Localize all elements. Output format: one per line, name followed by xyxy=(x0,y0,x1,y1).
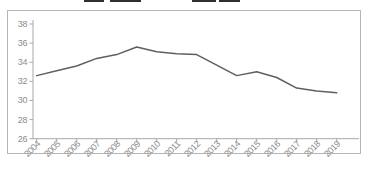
x-axis-tick-label: 2016 xyxy=(262,139,282,159)
x-axis-tick-label: 2007 xyxy=(82,139,102,159)
x-axis-tick-label: 2019 xyxy=(322,139,342,159)
x-axis-tick-label: 2013 xyxy=(202,139,222,159)
x-axis-tick-label: 2011 xyxy=(162,139,182,159)
y-axis-tick-label: 36 xyxy=(18,38,28,48)
y-axis-tick-label: 38 xyxy=(18,19,28,29)
y-axis-tick-label: 28 xyxy=(18,115,28,125)
x-axis-tick-label: 2015 xyxy=(242,139,262,159)
x-axis-tick-label: 2014 xyxy=(222,139,242,159)
y-axis-tick-label: 30 xyxy=(18,95,28,105)
chart-widget: 2628303234363820042005200620072008200920… xyxy=(0,0,370,170)
x-axis-tick-label: 2008 xyxy=(102,139,122,159)
x-axis-tick-label: 2017 xyxy=(282,139,302,159)
x-axis-tick-label: 2012 xyxy=(182,139,202,159)
x-axis-tick-label: 2010 xyxy=(142,139,162,159)
y-axis-tick-label: 34 xyxy=(18,57,28,67)
x-axis-tick-label: 2006 xyxy=(62,139,82,159)
x-axis-tick-label: 2018 xyxy=(302,139,322,159)
axis-lines xyxy=(33,20,359,139)
data-line xyxy=(37,47,337,93)
x-axis-tick-label: 2009 xyxy=(122,139,142,159)
y-axis-tick-label: 32 xyxy=(18,76,28,86)
x-axis-tick-label: 2005 xyxy=(42,139,62,159)
line-chart: 2628303234363820042005200620072008200920… xyxy=(0,0,370,170)
y-axis-tick-label: 26 xyxy=(18,134,28,144)
